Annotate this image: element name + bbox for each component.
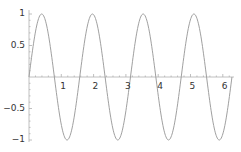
y-tick-label: 0.5 — [11, 41, 25, 50]
y-tick-label: −0.5 — [3, 104, 25, 113]
x-tick-label: 4 — [157, 82, 163, 91]
y-tick-label: 1 — [19, 9, 25, 18]
x-tick-label: 2 — [93, 82, 99, 91]
x-tick-label: 1 — [60, 82, 66, 91]
plot-area — [0, 0, 241, 152]
y-tick-label: −1 — [12, 135, 25, 144]
x-tick-label: 5 — [190, 82, 196, 91]
axes — [29, 10, 234, 142]
x-tick-label: 3 — [125, 82, 131, 91]
x-tick-label: 6 — [222, 82, 228, 91]
